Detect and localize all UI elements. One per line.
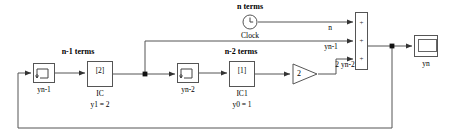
block-ic1[interactable]: [1]	[229, 61, 255, 87]
block-clock[interactable]	[242, 14, 258, 30]
signal-label-2yn2: 2 yn-2	[335, 60, 354, 69]
block-scope[interactable]	[414, 35, 438, 57]
title-n-minus-1-terms: n-1 terms	[62, 47, 95, 56]
title-n-minus-2-terms: n-2 terms	[225, 47, 258, 56]
signal-label-n: n	[328, 23, 332, 32]
signal-wires-layer	[0, 0, 451, 136]
label-delay-yn1: yn-1	[37, 85, 51, 94]
step-delay-icon	[34, 64, 54, 82]
title-n-terms: n terms	[237, 2, 263, 11]
label-ic1-sublabel: y0 = 1	[232, 100, 251, 109]
label-clock: Clock	[241, 31, 259, 40]
label-delay-yn2: yn-2	[181, 85, 195, 94]
block-gain-value: 2	[297, 69, 301, 78]
block-diagram-canvas: n-1 terms n-2 terms n terms yn-1 [2] IC …	[0, 0, 451, 136]
sum-sign-3: +	[360, 56, 364, 63]
wire-feedback-loop	[18, 46, 392, 128]
signal-label-yn1: yn-1	[324, 42, 338, 51]
clock-icon	[242, 14, 258, 30]
label-scope: yn	[422, 59, 430, 68]
block-delay-yn2[interactable]	[177, 63, 199, 83]
block-ic-value: [2]	[88, 66, 112, 75]
block-ic1-value: [1]	[230, 66, 254, 75]
sum-sign-2: +	[360, 38, 364, 45]
junction-dot-output	[390, 44, 395, 49]
gain-triangle-icon	[292, 63, 318, 85]
junction-dot-branch	[143, 72, 148, 77]
block-sum[interactable]: + + +	[355, 12, 368, 70]
block-ic[interactable]: [2]	[87, 61, 113, 87]
label-ic1: IC1	[236, 89, 247, 98]
scope-screen-icon	[418, 39, 437, 52]
block-gain[interactable]: 2	[292, 63, 318, 85]
sum-sign-1: +	[360, 20, 364, 27]
label-ic: IC	[96, 89, 104, 98]
block-delay-yn1[interactable]	[33, 63, 55, 83]
step-delay-icon	[178, 64, 198, 82]
label-ic-sublabel: y1 = 2	[90, 100, 109, 109]
